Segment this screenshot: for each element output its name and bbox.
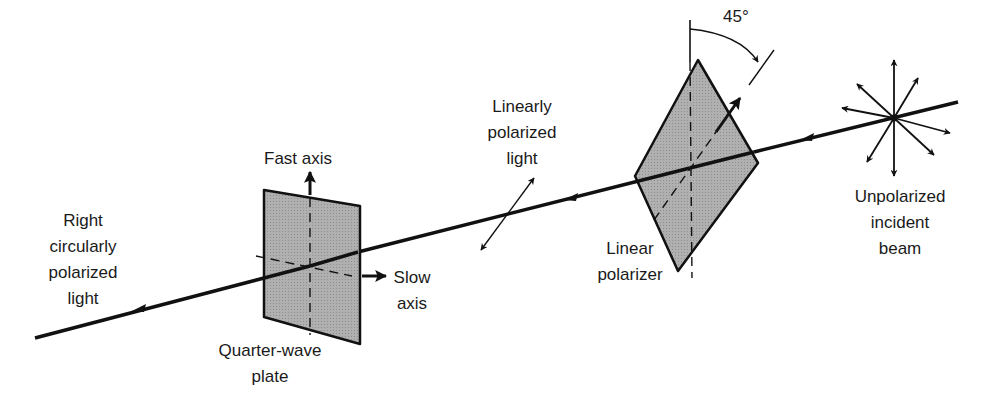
label-line: incident: [840, 210, 960, 236]
fast-axis-label: Fast axis: [264, 146, 332, 172]
angle-arc-icon: [690, 29, 758, 62]
linear-polarization-arrow-icon: [481, 178, 534, 250]
beam-direction-arrow-icon: [564, 193, 578, 201]
label-line: Unpolarized: [840, 184, 960, 210]
label-line: Quarter-wave: [200, 338, 340, 364]
label-line: polarized: [472, 120, 572, 146]
label-line: polarizer: [575, 262, 685, 288]
label-line: polarized: [33, 260, 133, 286]
angle-label: 45°: [723, 4, 749, 30]
label-line: beam: [840, 236, 960, 262]
label-line: plate: [200, 364, 340, 390]
quarter-wave-plate: [256, 172, 386, 344]
quarter-wave-plate-label: Quarter-wave plate: [200, 338, 340, 390]
beam-direction-arrow-icon: [800, 133, 814, 141]
label-line: light: [472, 146, 572, 172]
unpolarized-incident-beam-label: Unpolarized incident beam: [840, 184, 960, 262]
angle-text: 45°: [723, 4, 749, 30]
polarization-diagram: [0, 0, 983, 414]
beam-direction-arrow-icon: [132, 304, 146, 312]
label-line: Fast axis: [264, 146, 332, 172]
linearly-polarized-light-label: Linearly polarized light: [472, 94, 572, 172]
label-line: Slow: [387, 265, 437, 291]
label-line: axis: [387, 291, 437, 317]
unpolarized-star-icon: [842, 60, 950, 176]
label-line: light: [33, 286, 133, 312]
label-line: Linearly: [472, 94, 572, 120]
slow-axis-label: Slow axis: [387, 265, 437, 317]
linear-polarizer-label: Linear polarizer: [575, 236, 685, 288]
label-line: circularly: [33, 234, 133, 260]
label-line: Linear: [575, 236, 685, 262]
right-circularly-polarized-light-label: Right circularly polarized light: [33, 208, 133, 312]
label-line: Right: [33, 208, 133, 234]
